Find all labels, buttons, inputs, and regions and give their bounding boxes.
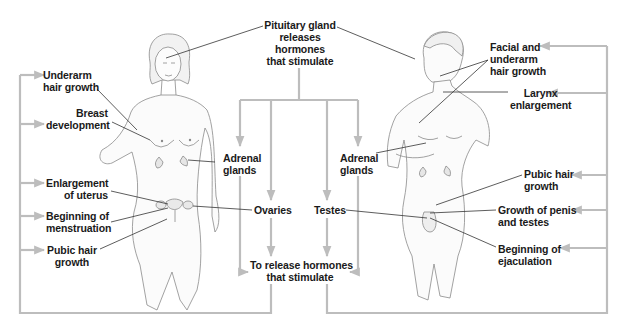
release-line-2: that stimulate [250, 271, 350, 283]
female-effect-enlargement-uterus: Enlargement of uterus [46, 177, 108, 201]
release-line-1: To release hormones [250, 259, 350, 271]
female-figure [100, 34, 219, 310]
label-line: Breast [46, 107, 108, 119]
pituitary-label: Pituitary gland releases hormones that s… [262, 19, 338, 67]
female-effect-pubic-hair: Pubic hair growth [46, 244, 98, 268]
label-line: menstruation [46, 222, 108, 234]
pituitary-line-4: that stimulate [262, 55, 338, 67]
label-line: Pubic hair [524, 168, 574, 180]
adrenal-left-line-2: glands [223, 164, 261, 176]
male-effect-penis-testes: Growth of penis and testes [498, 204, 576, 228]
label-line: enlargement [510, 99, 571, 111]
label-line: Larynx [510, 87, 571, 99]
label-line: Beginning of [498, 243, 561, 255]
pituitary-line-1: Pituitary gland [262, 19, 338, 31]
label-line: Enlargement [46, 177, 108, 189]
label-line: Beginning of [46, 210, 108, 222]
label-line: development [46, 119, 108, 131]
label-line: growth [46, 256, 98, 268]
label-line: hair growth [43, 81, 99, 93]
pituitary-line-2: releases [262, 31, 338, 43]
ovaries-label: Ovaries [254, 204, 292, 216]
label-line: underarm [490, 53, 546, 65]
male-effect-larynx: Larynx enlargement [510, 87, 571, 111]
release-hormones-label: To release hormones that stimulate [250, 259, 350, 283]
testes-label: Testes [314, 204, 346, 216]
female-effect-menstruation: Beginning of menstruation [46, 210, 108, 234]
male-effect-pubic-hair: Pubic hair growth [524, 168, 574, 192]
label-line: growth [524, 180, 574, 192]
female-effect-breast-development: Breast development [46, 107, 108, 131]
label-line: Pubic hair [46, 244, 98, 256]
label-line: and testes [498, 216, 576, 228]
adrenal-right-line-1: Adrenal [340, 152, 378, 164]
label-line: hair growth [490, 65, 546, 77]
label-line: of uterus [46, 189, 108, 201]
label-line: Growth of penis [498, 204, 576, 216]
label-line: Facial and [490, 41, 546, 53]
label-line: ejaculation [498, 255, 561, 267]
pituitary-line-3: hormones [262, 43, 338, 55]
adrenal-right-line-2: glands [340, 164, 378, 176]
male-effect-ejaculation: Beginning of ejaculation [498, 243, 561, 267]
female-effect-underarm-hair: Underarm hair growth [43, 69, 99, 93]
adrenal-glands-right-label: Adrenal glands [340, 152, 378, 176]
adrenal-glands-left-label: Adrenal glands [223, 152, 261, 176]
male-figure [387, 32, 489, 300]
male-effect-facial-underarm-hair: Facial and underarm hair growth [490, 41, 546, 77]
adrenal-left-line-1: Adrenal [223, 152, 261, 164]
label-line: Underarm [43, 69, 99, 81]
